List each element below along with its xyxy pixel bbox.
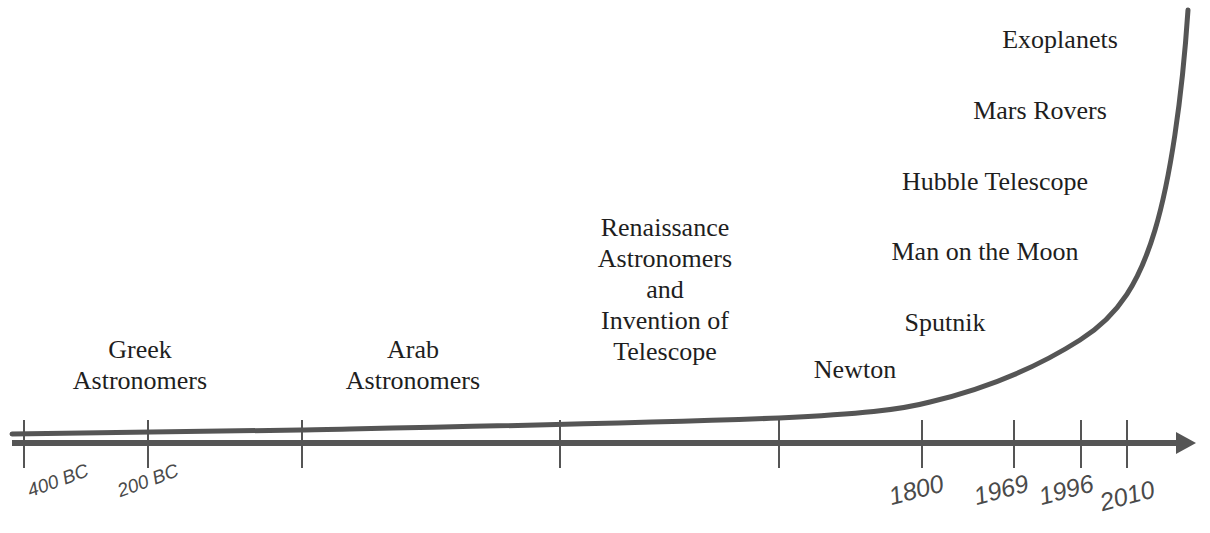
- label-line: Greek: [55, 334, 225, 365]
- label-line: Mars Rovers: [955, 95, 1125, 126]
- label-line: Telescope: [580, 336, 750, 367]
- label-line: Man on the Moon: [870, 236, 1100, 267]
- label-line: and: [580, 274, 750, 305]
- label-line: Sputnik: [890, 307, 1000, 338]
- label-line: Astronomers: [55, 365, 225, 396]
- event-label-newton: Newton: [800, 354, 910, 385]
- label-line: Newton: [800, 354, 910, 385]
- label-line: Invention of: [580, 305, 750, 336]
- event-label-sputnik: Sputnik: [890, 307, 1000, 338]
- event-label-man-on-the-moon: Man on the Moon: [870, 236, 1100, 267]
- label-line: Renaissance: [580, 212, 750, 243]
- event-label-exoplanets: Exoplanets: [995, 24, 1125, 55]
- label-line: Exoplanets: [995, 24, 1125, 55]
- event-label-greek-astronomers: Greek Astronomers: [55, 334, 225, 396]
- label-line: Astronomers: [580, 243, 750, 274]
- event-label-mars-rovers: Mars Rovers: [955, 95, 1125, 126]
- astronomy-timeline-diagram: Greek Astronomers Arab Astronomers Renai…: [0, 0, 1210, 533]
- event-label-renaissance: Renaissance Astronomers and Invention of…: [580, 212, 750, 367]
- event-label-arab-astronomers: Arab Astronomers: [328, 334, 498, 396]
- label-line: Hubble Telescope: [880, 166, 1110, 197]
- label-line: Arab: [328, 334, 498, 365]
- time-axis-arrow-icon: [1176, 432, 1196, 454]
- event-label-hubble-telescope: Hubble Telescope: [880, 166, 1110, 197]
- label-line: Astronomers: [328, 365, 498, 396]
